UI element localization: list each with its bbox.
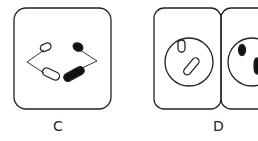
panel-left [154,8,221,109]
left-wire [27,50,44,73]
outlet-right-slot-large [254,58,258,74]
figure-c [14,8,111,109]
outlet-left-face [165,38,213,86]
prong-hollow-large [41,67,61,82]
outlet-right-slot-small [239,45,246,56]
figure-c-frame [14,8,111,109]
figure-d [154,8,258,109]
prong-solid-large [62,65,85,82]
right-wire [80,50,97,69]
prong-hollow-small [39,42,52,53]
panel-right [221,8,258,109]
figure-d-label: D [213,118,224,134]
outlet-left-slot-large [182,56,200,76]
outlet-left-slot-small [178,40,185,52]
figure-c-label: C [53,118,63,134]
